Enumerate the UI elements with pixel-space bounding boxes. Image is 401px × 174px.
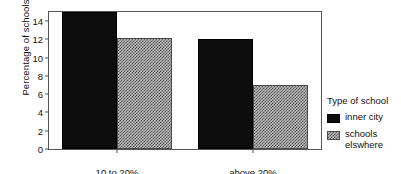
y-axis-tick-mark	[45, 57, 49, 58]
y-axis-tick-label: 14	[32, 16, 45, 27]
legend-item-schools-elswhere: schools elswhere	[327, 129, 401, 150]
y-axis-tick: 12	[32, 34, 49, 45]
legend-swatch-schools-elswhere	[327, 131, 340, 140]
y-axis-tick: 0	[38, 144, 49, 155]
x-axis-category-label: 10 to 20%	[96, 167, 139, 174]
plot-area: 0246810121410 to 20%above 20%	[48, 11, 322, 150]
y-axis-tick-mark	[45, 75, 49, 76]
y-axis-tick: 10	[32, 52, 49, 63]
y-axis-tick: 6	[38, 89, 49, 100]
legend-title: Type of school	[327, 95, 401, 106]
bar-schools-elswhere-above-20%	[253, 85, 308, 149]
y-axis-tick-mark	[45, 149, 49, 150]
bar-schools-elswhere-10-to-20%	[117, 38, 172, 149]
y-axis-tick-mark	[45, 39, 49, 40]
x-axis-tick-mark	[253, 149, 254, 153]
y-axis-tick: 14	[32, 16, 49, 27]
y-axis-tick: 8	[38, 70, 49, 81]
y-axis-tick-mark	[45, 130, 49, 131]
y-axis-tick: 2	[38, 125, 49, 136]
y-axis-tick-label: 8	[38, 70, 45, 81]
y-axis-tick-mark	[45, 112, 49, 113]
y-axis-tick: 4	[38, 107, 49, 118]
legend-swatch-inner-city	[327, 114, 340, 123]
legend-label-inner-city: inner city	[345, 112, 383, 123]
y-axis-tick-mark	[45, 21, 49, 22]
bar-inner-city-above-20%	[198, 39, 253, 149]
y-axis-title: Percentage of schools	[20, 0, 31, 118]
legend-item-inner-city: inner city	[327, 112, 401, 123]
legend-label-schools-elswhere: schools elswhere	[345, 129, 401, 150]
bar-chart-figure: Percentage of schools 0246810121410 to 2…	[0, 0, 401, 174]
y-axis-tick-label: 10	[32, 52, 45, 63]
bar-inner-city-10-to-20%	[62, 12, 117, 149]
y-axis-tick-label: 4	[38, 107, 45, 118]
legend: Type of school inner city schools elswhe…	[327, 95, 401, 156]
y-axis-tick-label: 6	[38, 89, 45, 100]
x-axis-tick-mark	[117, 149, 118, 153]
y-axis-tick-mark	[45, 94, 49, 95]
x-axis-category-label: above 20%	[229, 167, 277, 174]
y-axis-tick-label: 0	[38, 144, 45, 155]
y-axis-tick-label: 12	[32, 34, 45, 45]
plot-inner: 0246810121410 to 20%above 20%	[49, 12, 321, 149]
y-axis-tick-label: 2	[38, 125, 45, 136]
